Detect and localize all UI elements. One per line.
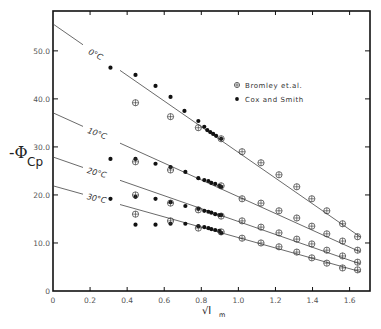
fit-line [53, 157, 83, 167]
cox-smith-point [209, 211, 213, 215]
bromley-point [132, 211, 138, 217]
bromley-point [354, 259, 360, 265]
bromley-point [309, 223, 315, 229]
cox-smith-point [108, 157, 112, 161]
cox-smith-point [183, 204, 187, 208]
x-tick-label: 0.8 [195, 296, 207, 305]
fit-line [53, 24, 83, 45]
bromley-point [218, 213, 224, 219]
bromley-point [218, 136, 224, 142]
bromley-point [239, 218, 245, 224]
cox-smith-point [202, 225, 206, 229]
fit-lines: 0°C10°C20°C30°C [53, 24, 361, 272]
bromley-point [324, 208, 330, 214]
x-tick-label: 1.2 [269, 296, 281, 305]
y-tick-label: 10.0 [33, 239, 50, 248]
bromley-point [339, 238, 345, 244]
legend-label-bromley: Bromley et.al. [245, 82, 302, 90]
cox-smith-point [196, 176, 200, 180]
legend-label-cox: Cox and Smith [245, 96, 304, 104]
cox-smith-point [108, 197, 112, 201]
bromley-point [339, 253, 345, 259]
fit-line-label: 30°C [86, 192, 108, 205]
fit-line [53, 113, 83, 127]
bromley-point [239, 149, 245, 155]
bromley-point [324, 231, 330, 237]
bromley-point [354, 234, 360, 240]
bromley-point [132, 100, 138, 106]
bromley-point [258, 200, 264, 206]
cox-smith-point [213, 182, 217, 186]
y-axis-label-main: -Φ [9, 143, 28, 162]
cox-smith-point [153, 162, 157, 166]
bromley-point [132, 159, 138, 165]
bromley-point [294, 236, 300, 242]
x-tick-label: 1.4 [307, 296, 319, 305]
bromley-point [258, 240, 264, 246]
bromley-point [258, 224, 264, 230]
cox-smith-point [133, 223, 137, 227]
cox-smith-point [153, 197, 157, 201]
legend: Bromley et.al. Cox and Smith [234, 82, 304, 104]
x-tick-label: 1.0 [232, 296, 244, 305]
bromley-point [258, 160, 264, 166]
cox-smith-point [209, 227, 213, 231]
data-points [108, 66, 360, 273]
chart: 00.20.40.60.81.01.21.41.6010.020.030.040… [0, 0, 381, 329]
y-tick-label: 0 [45, 287, 50, 296]
bromley-point [167, 218, 173, 224]
bromley-point [324, 260, 330, 266]
bromley-point [276, 172, 282, 178]
legend-marker-bromley [234, 82, 239, 87]
y-tick-label: 30.0 [33, 143, 50, 152]
cox-smith-point [213, 212, 217, 216]
cox-smith-point [214, 134, 218, 138]
cox-smith-point [183, 222, 187, 226]
bromley-point [339, 221, 345, 227]
bromley-point [218, 183, 224, 189]
bromley-point [339, 265, 345, 271]
x-tick-label: 0.6 [158, 296, 170, 305]
fit-line-label: 10°C [86, 126, 108, 141]
cox-smith-point [183, 170, 187, 174]
fit-line-label: 20°C [86, 166, 108, 180]
bromley-point [276, 230, 282, 236]
cox-smith-point [108, 66, 112, 70]
cox-smith-point [196, 119, 200, 123]
bromley-point [167, 114, 173, 120]
y-tick-label: 50.0 [33, 47, 50, 56]
axes: 00.20.40.60.81.01.21.41.6010.020.030.040… [33, 11, 370, 305]
bromley-point [309, 196, 315, 202]
y-tick-label: 40.0 [33, 95, 50, 104]
bromley-point [294, 184, 300, 190]
fit-line [120, 180, 361, 264]
bromley-point [276, 244, 282, 250]
cox-smith-point [202, 178, 206, 182]
bromley-point [239, 235, 245, 241]
fit-line-label: 0°C [87, 47, 105, 62]
x-tick-label: 0.2 [84, 296, 96, 305]
x-axis-label: √I m [202, 305, 225, 319]
bromley-point [294, 249, 300, 255]
cox-smith-point [168, 95, 172, 99]
cox-smith-point [153, 84, 157, 88]
bromley-point [239, 196, 245, 202]
cox-smith-point [153, 223, 157, 227]
bromley-point [195, 125, 201, 131]
bromley-point [167, 167, 173, 173]
cox-smith-point [133, 73, 137, 77]
y-tick-label: 20.0 [33, 191, 50, 200]
cox-smith-point [182, 109, 186, 113]
fit-line [53, 186, 83, 194]
bromley-point [276, 208, 282, 214]
legend-marker-cox [235, 97, 239, 101]
bromley-point [294, 215, 300, 221]
bromley-point [167, 200, 173, 206]
cox-smith-point [202, 209, 206, 213]
bromley-point [195, 225, 201, 231]
cox-smith-point [202, 125, 206, 129]
x-tick-label: 0.4 [121, 296, 133, 305]
bromley-point [218, 229, 224, 235]
bromley-point [195, 207, 201, 213]
x-tick-label: 1.6 [344, 296, 356, 305]
